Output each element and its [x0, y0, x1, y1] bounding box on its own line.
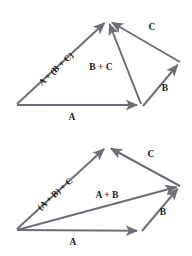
top-label-c: C	[149, 22, 156, 32]
bottom-label-ab-plus-c: (A + B) + C	[35, 175, 74, 212]
bottom-label-a-plus-b: A + B	[96, 190, 119, 200]
top-label-b: B	[162, 83, 169, 93]
bottom-label-c: C	[148, 149, 155, 159]
diagram-canvas: A B C B + C A + (B + C) A B C A + B (A	[0, 0, 192, 256]
bottom-label-b: B	[160, 207, 167, 217]
top-label-a: A	[69, 112, 76, 122]
vector-associativity-figure: A B C B + C A + (B + C) A B C A + B (A	[0, 0, 192, 256]
bottom-vector-a-arrow	[17, 230, 137, 231]
top-label-b-plus-c: B + C	[89, 62, 112, 72]
top-vector-b-arrow	[143, 65, 178, 106]
bottom-vector-c-arrow	[111, 149, 180, 187]
top-label-a-plus-bc: A + (B + C)	[37, 50, 76, 87]
bottom-label-a: A	[70, 237, 77, 247]
top-diagram: A B C B + C A + (B + C)	[17, 22, 180, 122]
bottom-diagram: A B C A + B (A + B) + C	[17, 149, 180, 248]
